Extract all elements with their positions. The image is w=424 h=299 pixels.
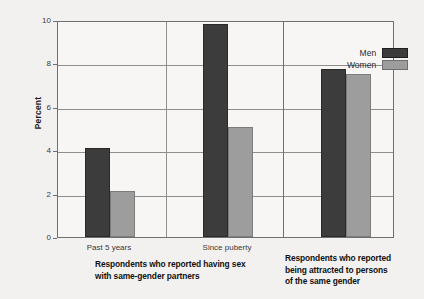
y-tick-label: 6 bbox=[47, 104, 51, 112]
panel-caption-2-line-2: being attracted to persons bbox=[285, 265, 391, 277]
legend-label-men: Men bbox=[360, 48, 377, 58]
panel-caption-1-line-1: Respondents who reported having sex bbox=[95, 259, 246, 271]
bar-men-group-1 bbox=[85, 148, 110, 237]
y-tick-label: 4 bbox=[47, 147, 51, 155]
x-tick-label: Past 5 years bbox=[87, 243, 131, 252]
panel-caption-1: Respondents who reported having sex with… bbox=[95, 259, 246, 282]
bar-men-group-3 bbox=[321, 69, 346, 237]
bar-men-group-2 bbox=[203, 24, 228, 237]
y-tick-label: 2 bbox=[47, 191, 51, 199]
y-tick-label: 10 bbox=[42, 17, 51, 25]
bar-women-group-3 bbox=[346, 74, 371, 237]
y-tick-label: 0 bbox=[47, 234, 51, 242]
plot-area: Men Women bbox=[57, 21, 394, 238]
y-tick-label: 8 bbox=[47, 60, 51, 68]
chart-legend: Men Women bbox=[347, 48, 408, 70]
y-tick-mark bbox=[53, 238, 57, 239]
x-tick-label: Since puberty bbox=[203, 243, 252, 252]
legend-swatch-women bbox=[382, 60, 408, 70]
panel-divider bbox=[283, 22, 284, 237]
panel-caption-1-line-2: with same-gender partners bbox=[95, 271, 246, 283]
legend-item-men: Men bbox=[347, 48, 408, 58]
legend-item-women: Women bbox=[347, 60, 408, 70]
legend-swatch-men bbox=[382, 48, 408, 58]
panel-caption-2-line-3: of the same gender bbox=[285, 276, 391, 288]
panel-caption-2-line-1: Respondents who reported bbox=[285, 253, 391, 265]
bar-women-group-2 bbox=[228, 127, 253, 237]
legend-label-women: Women bbox=[347, 60, 376, 70]
y-axis-title: Percent bbox=[33, 97, 43, 130]
panel-caption-2: Respondents who reported being attracted… bbox=[285, 253, 391, 288]
vertical-gridline bbox=[166, 22, 167, 237]
bar-women-group-1 bbox=[110, 191, 135, 237]
bar-chart-figure: Percent 0246810 Men Women Past 5 yearsSi… bbox=[0, 0, 424, 299]
